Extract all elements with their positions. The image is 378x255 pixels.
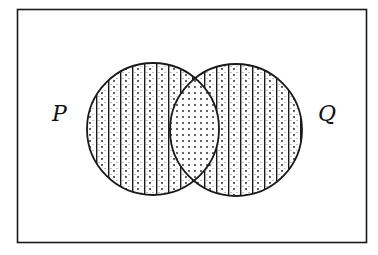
set-q-label: Q: [318, 101, 336, 126]
venn-diagram: P Q: [0, 0, 378, 255]
set-p-label: P: [51, 101, 68, 126]
